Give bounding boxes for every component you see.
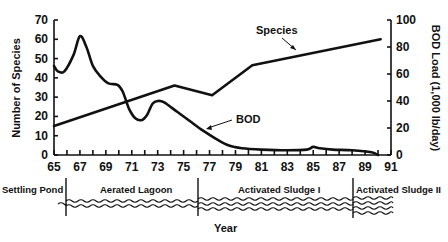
y-tick-label-right: 40 — [396, 94, 410, 108]
bod-annotation: BOD — [236, 113, 261, 125]
x-tick-label: 83 — [281, 160, 295, 174]
y-axis-title-right: BOD Load (1,000 lb/day) — [430, 25, 442, 152]
y-tick-label-left: 40 — [35, 71, 49, 85]
x-tick-label: 87 — [332, 160, 346, 174]
wave-lines-icon — [58, 197, 393, 215]
x-tick-label: 65 — [47, 160, 61, 174]
bod-arrowhead-icon — [206, 125, 212, 130]
phase-activated-sludge-2: Activated Sludge II — [356, 184, 441, 195]
y-tick-label-right: 80 — [396, 40, 410, 54]
x-tick-label: 67 — [73, 160, 87, 174]
y-tick-label-left: 10 — [35, 129, 49, 143]
series-bod-line — [54, 36, 378, 155]
y-tick-label-left: 30 — [35, 90, 49, 104]
species-annotation: Species — [256, 24, 298, 36]
x-tick-label: 89 — [358, 160, 372, 174]
x-axis-title: Year — [214, 222, 238, 234]
x-tick-label: 85 — [307, 160, 321, 174]
series-species-line — [54, 39, 381, 126]
x-tick-label: 91 — [384, 160, 398, 174]
x-tick-label: 75 — [177, 160, 191, 174]
phase-settling-pond: Settling Pond — [2, 184, 63, 195]
series-lines — [54, 36, 381, 155]
phase-aerated-lagoon: Aerated Lagoon — [100, 184, 173, 195]
x-tick-label: 81 — [255, 160, 269, 174]
y-tick-label-left: 70 — [35, 13, 49, 27]
y-axis-title-left: Number of Species — [10, 38, 22, 138]
species-bod-chart: 0102030405060700204060801006567697173757… — [0, 0, 448, 242]
y-tick-label-right: 60 — [396, 67, 410, 81]
y-tick-label-left: 50 — [35, 52, 49, 66]
y-tick-label-left: 20 — [35, 109, 49, 123]
y-tick-label-right: 20 — [396, 121, 410, 135]
x-tick-label: 71 — [125, 160, 139, 174]
x-tick-label: 77 — [203, 160, 217, 174]
phase-activated-sludge-1: Activated Sludge I — [238, 184, 320, 195]
bod-arrow-icon — [208, 120, 232, 128]
x-tick-label: 79 — [229, 160, 243, 174]
x-tick-label: 73 — [151, 160, 165, 174]
x-tick-label: 69 — [99, 160, 113, 174]
y-tick-label-left: 60 — [35, 32, 49, 46]
process-phase-band: Settling Pond Aerated Lagoon Activated S… — [2, 178, 441, 218]
y-tick-label-right: 100 — [396, 13, 416, 27]
